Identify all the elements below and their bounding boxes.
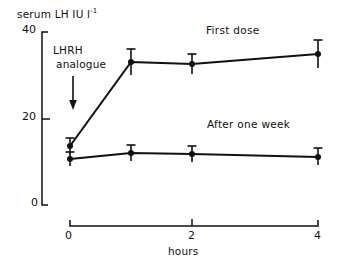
y-axis-title-text: serum LH IU l [17, 8, 90, 20]
chart-figure: serum LH IU l-1 40 20 0 0 2 4 hours LHRH… [0, 0, 337, 266]
y-tick-label-20: 20 [22, 111, 36, 124]
x-tick-label-2: 2 [188, 230, 195, 243]
x-axis [70, 219, 318, 226]
lhrh-analogue-arrow-icon [69, 76, 77, 110]
series-label-first-dose: First dose [206, 24, 259, 36]
y-axis [42, 32, 50, 205]
x-axis-spine [70, 220, 318, 226]
y-tick-label-40: 40 [22, 24, 36, 37]
annotation-analogue: analogue [56, 58, 106, 70]
annotation-lhrh: LHRH [53, 44, 83, 56]
chart-plot-area [0, 0, 337, 266]
x-axis-title: hours [168, 245, 199, 257]
x-tick-label-0: 0 [65, 230, 72, 243]
series-first-dose-line [70, 54, 318, 146]
y-tick-label-0: 0 [31, 197, 38, 210]
y-axis-title-exponent: -1 [90, 7, 97, 15]
series-after-one-week [66, 145, 323, 166]
x-tick-label-4: 4 [314, 230, 321, 243]
y-axis-title: serum LH IU l-1 [17, 7, 97, 20]
series-label-after-one-week: After one week [207, 118, 290, 130]
